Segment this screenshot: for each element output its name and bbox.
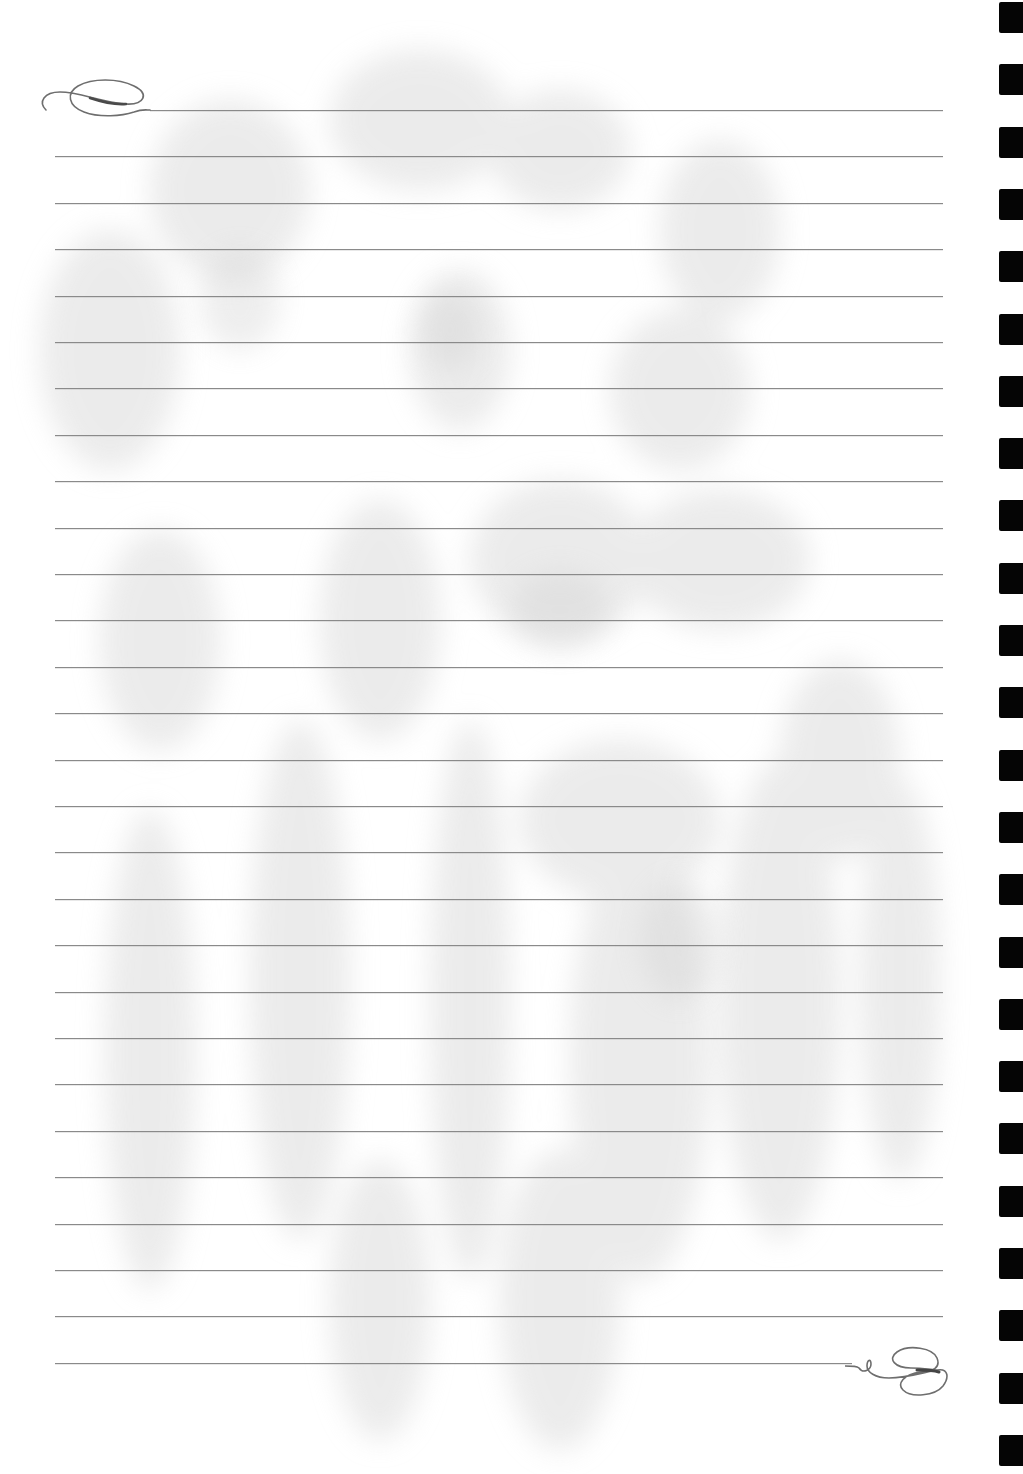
ruled-line [55,667,943,668]
ruled-line [55,203,943,204]
ruled-line [55,574,943,575]
binding-hole [999,874,1023,905]
binding-hole [999,1123,1023,1154]
ruled-line [55,620,943,621]
binding-hole [999,2,1023,33]
binding-hole [999,625,1023,656]
ruled-line [55,1177,943,1178]
binding-hole [999,1248,1023,1279]
binding-hole [999,1435,1023,1466]
binding-hole [999,127,1023,158]
ruled-line [55,1131,943,1132]
ruled-line [55,1363,852,1364]
binding-hole [999,314,1023,345]
ruled-line [55,528,943,529]
ruled-line [55,1084,943,1085]
binding-hole [999,1061,1023,1092]
binding-hole [999,500,1023,531]
ruled-line [55,435,943,436]
ruled-line [55,1224,943,1225]
binding-hole [999,1310,1023,1341]
ruled-line [55,156,943,157]
binding-hole [999,999,1023,1030]
binding-hole [999,812,1023,843]
ruled-line [55,1316,943,1317]
binding-hole [999,189,1023,220]
ruled-line [55,249,943,250]
binding-hole [999,1373,1023,1404]
binding-hole [999,687,1023,718]
binding-hole [999,563,1023,594]
ruled-line [55,713,943,714]
binding-hole [999,64,1023,95]
ruled-line [55,806,943,807]
ruled-line [55,899,943,900]
binding-hole [999,1186,1023,1217]
ruled-line [55,852,943,853]
ruled-line [55,481,943,482]
ruled-line [150,110,943,111]
top-left-swirl-flourish-icon [30,70,170,130]
ruled-line [55,992,943,993]
ruled-line [55,1038,943,1039]
bottom-right-swirl-flourish-icon [845,1338,955,1404]
ruled-line [55,296,943,297]
ruled-line [55,342,943,343]
binding-hole [999,937,1023,968]
flower-watermark [0,0,1000,1474]
binding-hole [999,750,1023,781]
ruled-line [55,1270,943,1271]
binding-hole [999,438,1023,469]
ruled-line [55,945,943,946]
ruled-line [55,388,943,389]
binding-hole [999,251,1023,282]
binding-hole [999,376,1023,407]
ruled-line [55,760,943,761]
